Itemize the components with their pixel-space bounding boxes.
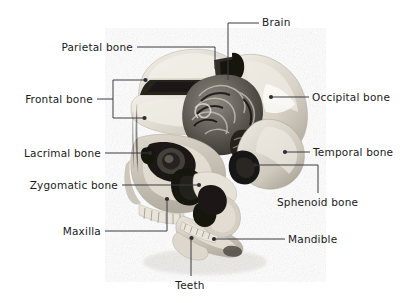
label-lacrimal-bone: Lacrimal bone [24, 147, 101, 159]
leader-dot-teeth [189, 236, 193, 240]
label-maxilla: Maxilla [63, 225, 101, 237]
label-brain: Brain [262, 16, 291, 28]
leader-dot-zygomatic-bone [197, 183, 201, 187]
label-occipital-bone: Occipital bone [312, 91, 390, 103]
leader-dot-temporal-bone [283, 150, 287, 154]
label-zygomatic-bone: Zygomatic bone [30, 179, 118, 191]
leader-dots [142, 78, 287, 241]
leader-dot-sphenoid-bone [253, 163, 257, 167]
leader-line-brain [228, 23, 259, 80]
leader-dot-mandible [212, 237, 216, 241]
leader-dot-frontal-bone [143, 78, 147, 82]
label-frontal-bone: Frontal bone [25, 93, 93, 105]
leader-dot-occipital-bone [269, 95, 273, 99]
leader-dot-lacrimal-bone [148, 151, 152, 155]
label-sphenoid-bone: Sphenoid bone [277, 196, 358, 208]
leader-line-parietal-bone [137, 47, 215, 69]
leader-dot-frontal-bone [142, 116, 146, 120]
label-temporal-bone: Temporal bone [313, 146, 393, 158]
label-parietal-bone: Parietal bone [61, 41, 133, 53]
label-teeth: Teeth [175, 279, 204, 291]
label-mandible: Mandible [288, 233, 337, 245]
leader-line-frontal-bone [97, 80, 144, 118]
leader-line-maxilla [105, 201, 167, 231]
skull-anatomy-figure: BrainParietal boneFrontal boneOccipital … [0, 0, 418, 303]
leader-dot-maxilla [165, 197, 169, 201]
leader-lines [97, 23, 318, 276]
leader-line-sphenoid-bone [257, 165, 318, 193]
